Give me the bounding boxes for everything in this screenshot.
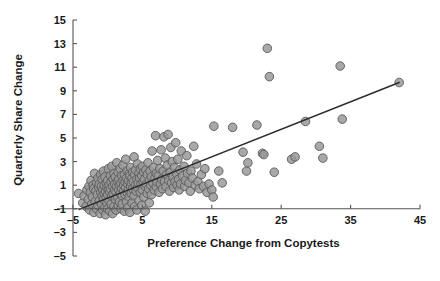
scatter-point — [171, 138, 180, 147]
scatter-point — [253, 121, 262, 130]
scatter-point — [260, 150, 269, 159]
y-tick-label: –5 — [54, 250, 66, 262]
scatter-point — [270, 168, 279, 177]
x-tick-label: 25 — [275, 214, 287, 226]
y-tick-label: 15 — [54, 14, 66, 26]
scatter-point — [263, 44, 272, 53]
scatter-point — [239, 148, 248, 157]
y-tick-label: 13 — [54, 38, 66, 50]
scatter-point — [148, 147, 157, 156]
scatter-point — [244, 158, 253, 167]
scatter-point — [209, 193, 218, 202]
scatter-plot-figure: –5–3–113579111315 –5515253545 Preference… — [0, 0, 440, 281]
scatter-point — [151, 131, 160, 140]
x-tick-label: –5 — [67, 214, 79, 226]
y-tick-label: 11 — [54, 61, 66, 73]
y-tick-label: 7 — [60, 108, 66, 120]
scatter-point — [121, 155, 130, 164]
y-tick-label: 3 — [60, 156, 66, 168]
axes-layer: –5–3–113579111315 –5515253545 — [54, 14, 426, 262]
scatter-point — [338, 115, 347, 124]
scatter-point — [157, 146, 166, 155]
y-tick-label: –1 — [54, 203, 66, 215]
plot-canvas: –5–3–113579111315 –5515253545 Preference… — [0, 0, 440, 281]
scatter-point — [291, 153, 300, 162]
scatter-point — [319, 154, 328, 163]
scatter-point — [164, 130, 173, 139]
scatter-point — [214, 167, 223, 176]
y-tick-label: 1 — [60, 179, 66, 191]
scatter-point — [336, 62, 345, 71]
scatter-point — [218, 179, 227, 188]
x-tick-label: 35 — [344, 214, 356, 226]
y-axis-title: Quarterly Share Change — [12, 54, 24, 186]
scatter-point — [173, 155, 182, 164]
y-tick-label: 9 — [60, 85, 66, 97]
x-tick-label: 45 — [414, 214, 426, 226]
x-tick-label: 15 — [206, 214, 218, 226]
scatter-point — [201, 164, 210, 173]
x-axis-title: Preference Change from Copytests — [147, 237, 339, 249]
scatter-point — [228, 123, 237, 132]
regression-trendline — [79, 83, 399, 210]
scatter-point — [145, 199, 154, 208]
scatter-point — [242, 167, 251, 176]
y-tick-label: –3 — [54, 226, 66, 238]
scatter-point — [210, 122, 219, 131]
scatter-point — [183, 151, 192, 160]
scatter-point — [315, 142, 324, 151]
data-points-layer — [74, 44, 403, 219]
scatter-point — [265, 72, 274, 81]
x-tick-label: 5 — [139, 214, 145, 226]
y-tick-label: 5 — [60, 132, 66, 144]
scatter-point — [189, 142, 198, 151]
